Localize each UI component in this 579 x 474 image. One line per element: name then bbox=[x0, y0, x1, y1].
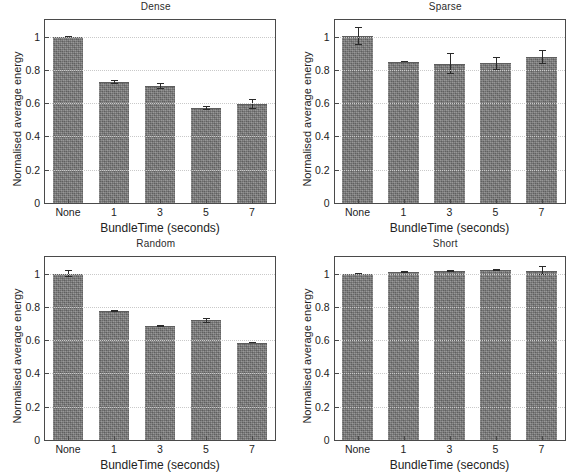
y-tick-label: 0.6 bbox=[25, 334, 40, 346]
y-tick-label: 0.2 bbox=[315, 164, 330, 176]
error-bar-cap-bottom bbox=[447, 271, 454, 272]
panel-title: Random bbox=[0, 238, 290, 249]
bar bbox=[99, 311, 129, 440]
y-tick-label: 0 bbox=[324, 434, 330, 446]
bar bbox=[480, 63, 510, 203]
error-bar-cap-bottom bbox=[157, 326, 164, 327]
gridline bbox=[45, 274, 275, 275]
gridline bbox=[335, 170, 565, 171]
y-tick-label: 0 bbox=[324, 197, 330, 209]
x-tick-label: 1 bbox=[401, 443, 407, 455]
y-tick-label: 0.4 bbox=[25, 367, 40, 379]
error-bar-cap-bottom bbox=[401, 61, 408, 62]
x-tick-label: 5 bbox=[203, 443, 209, 455]
y-tick-mark bbox=[45, 340, 49, 341]
x-axis-label: BundleTime (seconds) bbox=[334, 221, 566, 235]
error-bar-stem bbox=[542, 50, 543, 64]
gridline bbox=[45, 170, 275, 171]
x-tick-mark bbox=[252, 199, 253, 203]
x-tick-mark bbox=[450, 436, 451, 440]
y-tick-label: 0 bbox=[34, 434, 40, 446]
error-bar-cap-bottom bbox=[111, 311, 118, 312]
x-tick-label: None bbox=[55, 443, 80, 455]
bar bbox=[434, 64, 464, 203]
bar-series bbox=[335, 257, 565, 440]
x-tick-label: None bbox=[345, 206, 370, 218]
error-bar-cap-top bbox=[203, 106, 210, 107]
error-bar-cap-top bbox=[203, 318, 210, 319]
y-tick-label: 0.8 bbox=[25, 301, 40, 313]
bar bbox=[342, 274, 372, 440]
x-tick-label: None bbox=[345, 443, 370, 455]
gridline bbox=[335, 274, 565, 275]
gridline bbox=[45, 407, 275, 408]
error-bar-cap-top bbox=[65, 270, 72, 271]
y-tick-label: 0.2 bbox=[25, 401, 40, 413]
y-tick-label: 0.6 bbox=[315, 97, 330, 109]
y-tick-mark bbox=[335, 170, 339, 171]
x-axis-label: BundleTime (seconds) bbox=[44, 221, 276, 235]
gridline bbox=[45, 307, 275, 308]
error-bar-cap-bottom bbox=[65, 276, 72, 277]
x-tick-label: 5 bbox=[493, 206, 499, 218]
x-tick-mark bbox=[404, 199, 405, 203]
y-tick-label: 1 bbox=[324, 31, 330, 43]
gridline bbox=[335, 340, 565, 341]
panel-dense: Dense Normalised average energy 00.20.40… bbox=[0, 0, 290, 237]
panel-sparse: Sparse Normalised average energy 00.20.4… bbox=[290, 0, 579, 237]
bar bbox=[237, 104, 267, 203]
y-axis-label: Normalised average energy bbox=[301, 34, 313, 204]
y-tick-mark bbox=[45, 307, 49, 308]
y-tick-mark bbox=[45, 407, 49, 408]
error-bar-cap-bottom bbox=[203, 322, 210, 323]
gridline bbox=[335, 37, 565, 38]
y-tick-mark bbox=[45, 136, 49, 137]
x-tick-label: 7 bbox=[249, 206, 255, 218]
y-tick-mark bbox=[335, 203, 339, 204]
error-bar-cap-top bbox=[157, 83, 164, 84]
x-tick-label: 7 bbox=[539, 206, 545, 218]
plot-area: 00.20.40.60.81None1357 bbox=[44, 19, 276, 204]
x-tick-mark bbox=[206, 436, 207, 440]
panel-random: Random Normalised average energy 00.20.4… bbox=[0, 237, 290, 474]
error-bar-cap-bottom bbox=[203, 109, 210, 110]
y-tick-mark bbox=[335, 307, 339, 308]
error-bar-cap-bottom bbox=[447, 73, 454, 74]
y-tick-label: 1 bbox=[34, 31, 40, 43]
y-tick-label: 0.8 bbox=[315, 301, 330, 313]
gridline bbox=[335, 136, 565, 137]
error-bar-cap-top bbox=[249, 99, 256, 100]
x-tick-label: 5 bbox=[203, 206, 209, 218]
x-tick-mark bbox=[404, 436, 405, 440]
x-tick-mark bbox=[358, 199, 359, 203]
x-tick-mark bbox=[160, 436, 161, 440]
y-tick-label: 1 bbox=[34, 268, 40, 280]
x-tick-label: 3 bbox=[447, 443, 453, 455]
x-tick-mark bbox=[496, 199, 497, 203]
panel-title: Short bbox=[290, 238, 579, 249]
bar bbox=[191, 320, 221, 440]
error-bar-cap-bottom bbox=[355, 44, 362, 45]
bar bbox=[434, 271, 464, 440]
x-axis-label: BundleTime (seconds) bbox=[44, 458, 276, 472]
x-axis-label: BundleTime (seconds) bbox=[334, 458, 566, 472]
error-bar-cap-top bbox=[447, 53, 454, 54]
panel-title: Dense bbox=[0, 1, 290, 12]
y-tick-label: 0.6 bbox=[315, 334, 330, 346]
bar bbox=[388, 272, 418, 440]
y-tick-mark bbox=[45, 203, 49, 204]
error-bar-cap-bottom bbox=[157, 88, 164, 89]
x-tick-label: 5 bbox=[493, 443, 499, 455]
figure-grid: Dense Normalised average energy 00.20.40… bbox=[0, 0, 579, 474]
bar bbox=[53, 274, 83, 440]
error-bar-cap-bottom bbox=[493, 270, 500, 271]
error-bar-cap-top bbox=[111, 80, 118, 81]
bar bbox=[191, 108, 221, 203]
gridline bbox=[45, 136, 275, 137]
y-tick-mark bbox=[335, 103, 339, 104]
y-tick-label: 0.8 bbox=[315, 64, 330, 76]
y-tick-label: 0.4 bbox=[315, 130, 330, 142]
y-tick-mark bbox=[335, 340, 339, 341]
x-tick-label: 3 bbox=[157, 206, 163, 218]
gridline bbox=[45, 340, 275, 341]
